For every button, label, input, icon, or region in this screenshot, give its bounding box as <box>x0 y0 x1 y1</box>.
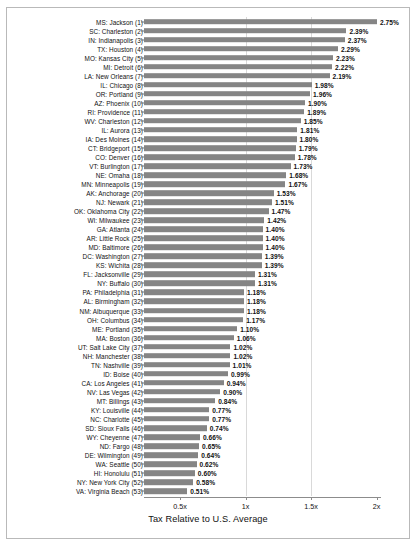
bar-row: HI: Honolulu (51)0.60% <box>7 469 409 478</box>
value-label: 1.02% <box>233 343 252 350</box>
bar <box>144 217 264 223</box>
bar <box>144 145 296 151</box>
category-label: KS: Wichita (28) <box>96 262 143 269</box>
value-label: 0.77% <box>212 406 231 413</box>
value-label: 1.81% <box>300 126 319 133</box>
value-label: 1.17% <box>246 316 265 323</box>
bar <box>144 335 234 341</box>
bar-row: UT: Salt Lake City (37)1.02% <box>7 342 409 351</box>
category-label: WY: Cheyenne (47) <box>86 433 143 440</box>
bar <box>144 109 304 115</box>
value-label: 1.53% <box>277 190 296 197</box>
bar-row: NH: Manchester (38)1.02% <box>7 351 409 360</box>
category-label: KY: Louisville (44) <box>91 406 143 413</box>
value-label: 0.62% <box>200 461 219 468</box>
bar-row: MO: Kansas City (5)2.23% <box>7 53 409 62</box>
value-label: 1.02% <box>233 352 252 359</box>
category-label: SC: Charleston (2) <box>89 27 143 34</box>
x-tick <box>377 497 378 500</box>
bar <box>144 281 255 287</box>
bar <box>144 199 272 205</box>
bar-row: MS: Jackson (1)2.75% <box>7 17 409 26</box>
bar <box>144 254 262 260</box>
value-label: 1.18% <box>247 307 266 314</box>
bar-row: TX: Houston (4)2.29% <box>7 44 409 53</box>
x-tick-label: 2x <box>373 502 381 511</box>
value-label: 0.84% <box>218 397 237 404</box>
category-label: NJ: Newark (21) <box>96 199 143 206</box>
value-label: 0.51% <box>190 488 209 495</box>
category-label: MT: Billings (43) <box>97 397 143 404</box>
value-label: 1.51% <box>275 199 294 206</box>
value-label: 2.23% <box>336 54 355 61</box>
bar <box>144 434 200 440</box>
value-label: 1.10% <box>240 325 259 332</box>
bar-row: TN: Nashville (39)1.01% <box>7 360 409 369</box>
bar <box>144 371 228 377</box>
category-label: DC: Washington (27) <box>83 253 143 260</box>
bar-row: DC: Washington (27)1.39% <box>7 252 409 261</box>
value-label: 1.79% <box>299 144 318 151</box>
category-label: HI: Honolulu (51) <box>94 470 143 477</box>
bar-row: CO: Denver (16)1.78% <box>7 152 409 161</box>
category-label: TX: Houston (4) <box>97 45 143 52</box>
bar-row: ND: Fargo (48)0.65% <box>7 441 409 450</box>
bar-row: AL: Birmingham (32)1.18% <box>7 297 409 306</box>
bar-row: NM: Albuquerque (33)1.18% <box>7 306 409 315</box>
bar <box>144 479 193 485</box>
bar-row: SD: Sioux Falls (46)0.74% <box>7 423 409 432</box>
value-label: 1.31% <box>258 280 277 287</box>
bar-row: PA: Philadelphia (31)1.18% <box>7 288 409 297</box>
value-label: 0.58% <box>196 479 215 486</box>
bar <box>144 55 333 61</box>
bar <box>144 208 269 214</box>
bar-row: RI: Providence (11)1.89% <box>7 107 409 116</box>
bar <box>144 416 209 422</box>
category-label: IA: Des Moines (14) <box>86 135 143 142</box>
bar-row: VA: Virginia Beach (53)0.51% <box>7 487 409 496</box>
bar <box>144 407 209 413</box>
bar <box>144 245 263 251</box>
bar-row: OK: Oklahoma City (22)1.47% <box>7 207 409 216</box>
bar-row: IA: Des Moines (14)1.80% <box>7 134 409 143</box>
x-tick <box>180 497 181 500</box>
bar-rows: MS: Jackson (1)2.75%SC: Charleston (2)2.… <box>7 17 409 496</box>
value-label: 1.31% <box>258 271 277 278</box>
bar <box>144 290 244 296</box>
bar-row: NJ: Newark (21)1.51% <box>7 198 409 207</box>
bar-row: SC: Charleston (2)2.39% <box>7 26 409 35</box>
bar <box>144 64 332 70</box>
bar <box>144 389 220 395</box>
value-label: 0.77% <box>212 415 231 422</box>
bar-row: WI: Milwaukee (23)1.42% <box>7 216 409 225</box>
bar <box>144 82 312 88</box>
category-label: WA: Seattle (50) <box>96 461 143 468</box>
x-tick-label: 1x <box>242 502 250 511</box>
bar <box>144 19 377 25</box>
value-label: 0.94% <box>227 379 246 386</box>
bar-row: MN: Minneapolis (19)1.67% <box>7 180 409 189</box>
bar <box>144 46 338 52</box>
value-label: 1.80% <box>300 135 319 142</box>
value-label: 2.29% <box>341 45 360 52</box>
bar-row: MD: Baltimore (26)1.40% <box>7 243 409 252</box>
bar-row: NE: Omaha (18)1.68% <box>7 171 409 180</box>
bar <box>144 163 291 169</box>
bar <box>144 470 195 476</box>
bar <box>144 488 187 494</box>
value-label: 1.96% <box>313 90 332 97</box>
bar-row: MA: Boston (36)1.06% <box>7 333 409 342</box>
value-label: 1.01% <box>233 361 252 368</box>
category-label: VT: Burlington (17) <box>89 163 143 170</box>
bar-row: AZ: Phoenix (10)1.90% <box>7 98 409 107</box>
bar-row: NY: Buffalo (30)1.31% <box>7 279 409 288</box>
bar <box>144 226 263 232</box>
plot-area: MS: Jackson (1)2.75%SC: Charleston (2)2.… <box>7 8 409 538</box>
bar <box>144 344 230 350</box>
bar-row: WY: Cheyenne (47)0.66% <box>7 432 409 441</box>
chart-frame: MS: Jackson (1)2.75%SC: Charleston (2)2.… <box>6 7 410 539</box>
bar <box>144 380 224 386</box>
value-label: 1.42% <box>267 217 286 224</box>
value-label: 1.85% <box>304 117 323 124</box>
bar <box>144 353 230 359</box>
